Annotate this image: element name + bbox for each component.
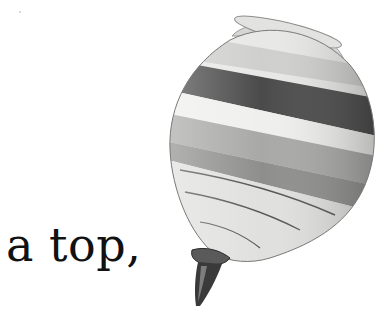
caption-text: a top, (6, 222, 141, 268)
speck-mark (19, 11, 21, 13)
spinning-top-image (160, 10, 386, 330)
spinning-top-icon (160, 10, 386, 330)
